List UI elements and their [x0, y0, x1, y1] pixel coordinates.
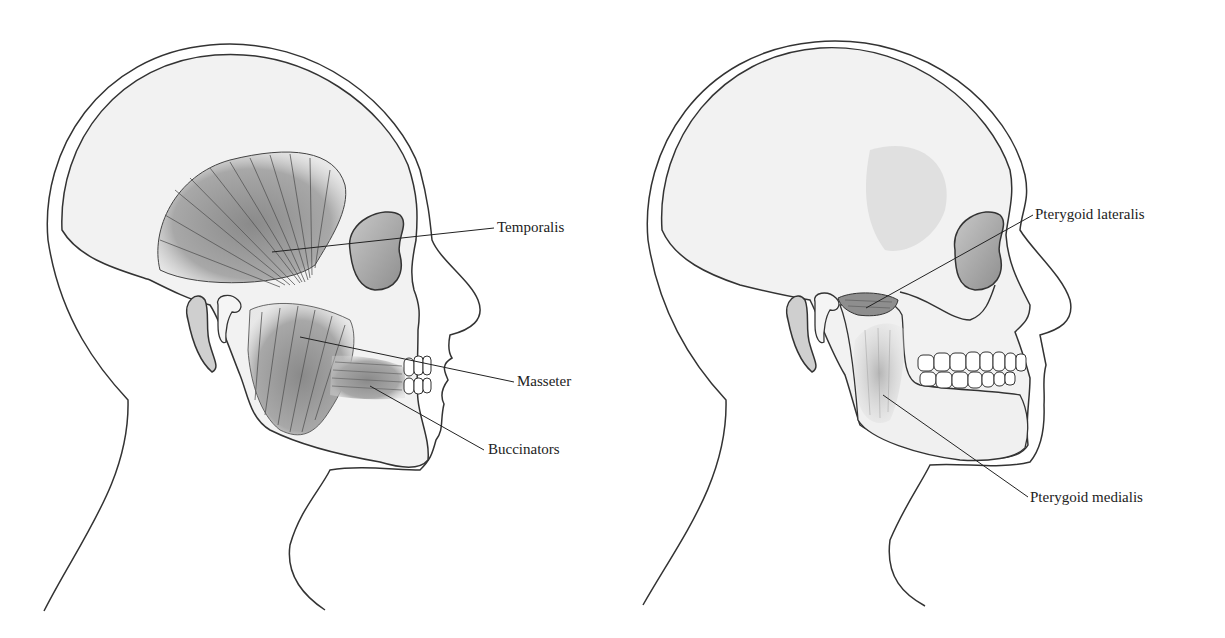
label-buccinators: Buccinators	[488, 442, 560, 457]
right-head	[643, 41, 1071, 606]
label-pterygoid-medialis: Pterygoid medialis	[1030, 490, 1143, 505]
left-head	[44, 44, 514, 611]
right-orbit	[955, 212, 1004, 290]
anatomy-illustration	[0, 0, 1225, 638]
label-pterygoid-lateralis: Pterygoid lateralis	[1035, 207, 1145, 222]
right-ear	[787, 296, 816, 372]
label-masseter: Masseter	[517, 374, 571, 389]
label-temporalis: Temporalis	[497, 220, 564, 235]
anatomy-figure: Temporalis Masseter Buccinators Pterygoi…	[0, 0, 1225, 638]
